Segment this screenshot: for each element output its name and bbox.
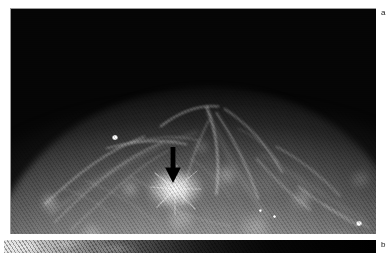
panel-label-b: b (381, 240, 385, 249)
panel-label-a: a (381, 8, 385, 17)
calcification-spot (112, 135, 118, 140)
calcification-spot (273, 215, 276, 218)
calcification-spot (356, 221, 362, 226)
arrow-marker-icon (163, 147, 183, 183)
figure-root: a b (0, 0, 391, 253)
panel-b-halftone-texture (4, 240, 376, 253)
panel-b-image (4, 240, 376, 253)
panel-a-image (10, 8, 376, 234)
calcification-spot (259, 209, 262, 212)
